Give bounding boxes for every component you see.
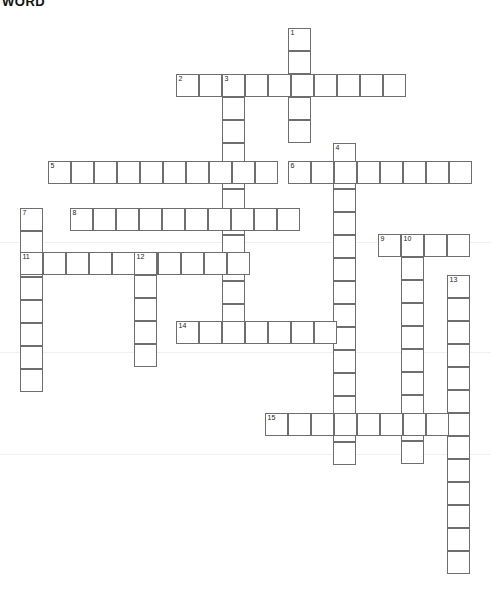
crossword-cell[interactable] — [245, 74, 268, 97]
crossword-cell[interactable] — [288, 120, 311, 143]
crossword-cell[interactable] — [401, 280, 424, 303]
crossword-cell[interactable] — [116, 208, 139, 231]
crossword-cell[interactable] — [199, 74, 222, 97]
crossword-cell[interactable] — [20, 369, 43, 392]
crossword-cell[interactable] — [134, 344, 157, 367]
crossword-cell[interactable] — [401, 326, 424, 349]
crossword-cell[interactable] — [43, 252, 66, 275]
crossword-cell[interactable] — [357, 161, 380, 184]
crossword-cell[interactable]: 2 — [176, 74, 199, 97]
crossword-cell[interactable] — [222, 120, 245, 143]
crossword-cell[interactable] — [337, 74, 360, 97]
crossword-cell[interactable] — [447, 344, 470, 367]
crossword-cell[interactable] — [254, 208, 277, 231]
crossword-cell[interactable] — [426, 161, 449, 184]
crossword-cell[interactable] — [426, 413, 449, 436]
crossword-cell[interactable] — [333, 235, 356, 258]
crossword-cell[interactable] — [447, 551, 470, 574]
crossword-cell[interactable] — [89, 252, 112, 275]
crossword-cell[interactable] — [333, 442, 356, 465]
crossword-cell[interactable] — [403, 413, 426, 436]
crossword-cell[interactable] — [163, 161, 186, 184]
crossword-cell[interactable] — [20, 323, 43, 346]
crossword-cell[interactable] — [288, 51, 311, 74]
crossword-cell[interactable]: 1 — [288, 28, 311, 51]
crossword-cell[interactable] — [403, 161, 426, 184]
crossword-cell[interactable]: 15 — [265, 413, 288, 436]
crossword-cell[interactable]: 5 — [48, 161, 71, 184]
crossword-cell[interactable] — [447, 505, 470, 528]
crossword-cell[interactable]: 12 — [134, 252, 157, 275]
crossword-cell[interactable] — [447, 390, 470, 413]
crossword-cell[interactable] — [291, 321, 314, 344]
crossword-cell[interactable] — [401, 349, 424, 372]
crossword-cell[interactable] — [401, 372, 424, 395]
crossword-cell[interactable] — [222, 97, 245, 120]
crossword-cell[interactable] — [401, 441, 424, 464]
crossword-cell[interactable] — [185, 208, 208, 231]
crossword-cell[interactable]: 11 — [20, 252, 43, 275]
crossword-cell[interactable] — [204, 252, 227, 275]
crossword-cell[interactable] — [449, 161, 472, 184]
crossword-cell[interactable] — [227, 252, 250, 275]
crossword-cell[interactable] — [158, 252, 181, 275]
crossword-cell[interactable] — [71, 161, 94, 184]
crossword-cell[interactable] — [222, 321, 245, 344]
crossword-cell[interactable] — [311, 161, 334, 184]
crossword-cell[interactable] — [20, 277, 43, 300]
crossword-cell[interactable] — [447, 413, 470, 436]
crossword-cell[interactable] — [334, 161, 357, 184]
crossword-cell[interactable] — [208, 208, 231, 231]
crossword-cell[interactable] — [447, 367, 470, 390]
crossword-cell[interactable] — [314, 74, 337, 97]
crossword-cell[interactable] — [94, 161, 117, 184]
crossword-cell[interactable] — [333, 350, 356, 373]
crossword-cell[interactable]: 14 — [176, 321, 199, 344]
crossword-cell[interactable] — [333, 189, 356, 212]
crossword-cell[interactable] — [162, 208, 185, 231]
crossword-cell[interactable]: 10 — [401, 234, 424, 257]
crossword-cell[interactable] — [20, 231, 43, 254]
crossword-cell[interactable] — [181, 252, 204, 275]
crossword-cell[interactable] — [447, 234, 470, 257]
crossword-cell[interactable] — [231, 208, 254, 231]
crossword-cell[interactable] — [288, 97, 311, 120]
crossword-cell[interactable] — [424, 234, 447, 257]
crossword-cell[interactable] — [245, 321, 268, 344]
crossword-cell[interactable] — [447, 436, 470, 459]
crossword-cell[interactable] — [134, 298, 157, 321]
crossword-cell[interactable] — [447, 482, 470, 505]
crossword-cell[interactable] — [209, 161, 232, 184]
crossword-cell[interactable] — [333, 281, 356, 304]
crossword-cell[interactable] — [383, 74, 406, 97]
crossword-cell[interactable] — [401, 303, 424, 326]
crossword-cell[interactable] — [380, 161, 403, 184]
crossword-cell[interactable] — [447, 298, 470, 321]
crossword-cell[interactable] — [333, 258, 356, 281]
crossword-cell[interactable] — [199, 321, 222, 344]
crossword-cell[interactable] — [357, 413, 380, 436]
crossword-cell[interactable] — [20, 300, 43, 323]
crossword-cell[interactable] — [447, 459, 470, 482]
crossword-cell[interactable] — [447, 528, 470, 551]
crossword-cell[interactable] — [20, 346, 43, 369]
crossword-cell[interactable] — [288, 413, 311, 436]
crossword-cell[interactable] — [66, 252, 89, 275]
crossword-cell[interactable] — [277, 208, 300, 231]
crossword-cell[interactable] — [222, 281, 245, 304]
crossword-cell[interactable] — [380, 413, 403, 436]
crossword-cell[interactable]: 3 — [222, 74, 245, 97]
crossword-cell[interactable] — [268, 74, 291, 97]
crossword-cell[interactable] — [360, 74, 383, 97]
crossword-cell[interactable] — [333, 373, 356, 396]
crossword-cell[interactable] — [93, 208, 116, 231]
crossword-cell[interactable] — [112, 252, 135, 275]
crossword-cell[interactable] — [268, 321, 291, 344]
crossword-cell[interactable] — [232, 161, 255, 184]
crossword-cell[interactable] — [134, 321, 157, 344]
crossword-cell[interactable] — [333, 212, 356, 235]
crossword-cell[interactable]: 6 — [288, 161, 311, 184]
crossword-cell[interactable]: 7 — [20, 208, 43, 231]
crossword-cell[interactable] — [186, 161, 209, 184]
crossword-cell[interactable] — [134, 275, 157, 298]
